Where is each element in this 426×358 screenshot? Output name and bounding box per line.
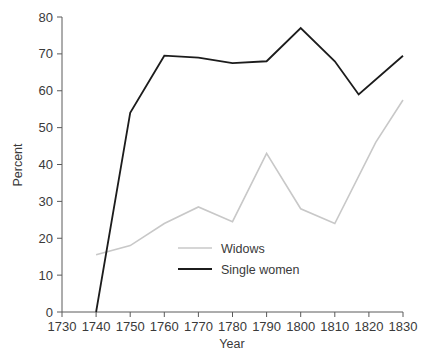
chart-figure: 01020304050607080 1730174017501760177017… bbox=[0, 0, 426, 358]
series-line-widows bbox=[96, 100, 403, 255]
x-tick-label: 1810 bbox=[320, 319, 349, 334]
y-axis-ticks bbox=[57, 17, 62, 312]
legend-label-widows: Widows bbox=[221, 242, 265, 256]
x-tick-label: 1800 bbox=[286, 319, 315, 334]
x-axis-ticks bbox=[62, 312, 403, 317]
x-axis-tick-labels: 1730174017501760177017801790180018101820… bbox=[48, 319, 418, 334]
y-axis-title: Percent bbox=[11, 143, 25, 187]
y-tick-label: 80 bbox=[39, 10, 53, 25]
line-chart-svg: 01020304050607080 1730174017501760177017… bbox=[0, 0, 426, 358]
x-tick-label: 1750 bbox=[116, 319, 145, 334]
legend-label-single-women: Single women bbox=[221, 263, 300, 277]
x-tick-label: 1770 bbox=[184, 319, 213, 334]
y-tick-label: 40 bbox=[39, 157, 53, 172]
x-tick-label: 1760 bbox=[150, 319, 179, 334]
x-tick-label: 1740 bbox=[82, 319, 111, 334]
y-tick-label: 0 bbox=[46, 305, 53, 320]
x-tick-label: 1820 bbox=[354, 319, 383, 334]
x-tick-label: 1830 bbox=[389, 319, 418, 334]
x-tick-label: 1790 bbox=[252, 319, 281, 334]
y-axis-tick-labels: 01020304050607080 bbox=[39, 10, 53, 320]
y-tick-label: 30 bbox=[39, 194, 53, 209]
y-tick-label: 50 bbox=[39, 120, 53, 135]
chart-legend: WidowsSingle women bbox=[178, 242, 300, 277]
x-tick-label: 1730 bbox=[48, 319, 77, 334]
y-tick-label: 10 bbox=[39, 268, 53, 283]
y-tick-label: 70 bbox=[39, 46, 53, 61]
x-axis-title: Year bbox=[219, 337, 244, 351]
y-tick-label: 60 bbox=[39, 83, 53, 98]
x-tick-label: 1780 bbox=[218, 319, 247, 334]
y-tick-label: 20 bbox=[39, 231, 53, 246]
